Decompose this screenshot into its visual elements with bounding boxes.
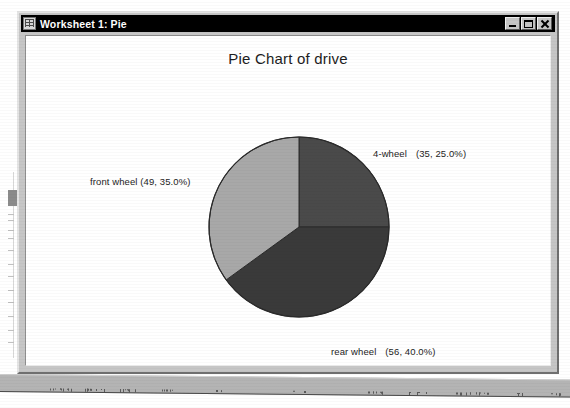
minimize-button[interactable] (505, 17, 520, 30)
maximize-button[interactable] (521, 17, 536, 30)
slice-label-rear-wheel-name: rear wheel (331, 346, 376, 357)
slice-label-4-wheel-name: 4-wheel (373, 148, 407, 159)
slice-label-4-wheel: 4-wheel(35, 25.0%) (373, 148, 466, 159)
slice-label-rear-wheel-detail: (56, 40.0%) (385, 346, 435, 357)
window-client-area: Pie Chart of drive 4-wheel(35, 25.0%) fr… (21, 32, 555, 370)
chart-canvas[interactable]: Pie Chart of drive 4-wheel(35, 25.0%) fr… (25, 35, 551, 366)
window-controls (505, 17, 553, 30)
pie-chart-graphic (26, 36, 551, 366)
window-title-text: Worksheet 1: Pie (40, 18, 127, 30)
slice-label-rear-wheel: rear wheel(56, 40.0%) (331, 346, 436, 357)
worksheet-grid-icon (23, 17, 36, 30)
desktop-background: Worksheet 1: Pie Pie Chart of drive (0, 0, 570, 408)
worksheet-window[interactable]: Worksheet 1: Pie Pie Chart of drive (17, 11, 559, 374)
slice-label-front-wheel-detail: (49, 35.0%) (140, 176, 190, 187)
slice-label-front-wheel: front wheel (49, 35.0%) (90, 176, 191, 187)
slice-label-4-wheel-detail: (35, 25.0%) (416, 148, 466, 159)
window-titlebar[interactable]: Worksheet 1: Pie (21, 15, 555, 32)
slice-label-front-wheel-name: front wheel (90, 176, 138, 187)
close-button[interactable] (537, 17, 552, 30)
pie-slices (209, 137, 389, 317)
